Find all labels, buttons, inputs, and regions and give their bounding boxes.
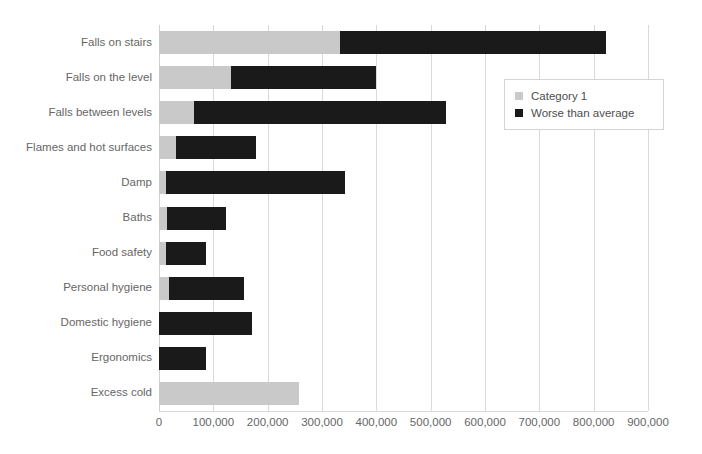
bar-segment[interactable]: [159, 66, 231, 89]
bar-segment[interactable]: [169, 277, 243, 300]
bar-segment[interactable]: [176, 136, 255, 159]
bar-row[interactable]: [159, 382, 648, 405]
legend-swatch-icon-category-1: [515, 92, 523, 100]
bar-segment[interactable]: [159, 31, 340, 54]
bar-segment[interactable]: [159, 382, 299, 405]
bar-segment[interactable]: [167, 207, 226, 230]
x-tick-label: 600,000: [464, 416, 506, 428]
x-tick-label: 0: [156, 416, 162, 428]
category-label: Flames and hot surfaces: [0, 142, 152, 154]
x-tick-label: 500,000: [410, 416, 452, 428]
x-tick-label: 700,000: [519, 416, 561, 428]
bar-row[interactable]: [159, 277, 648, 300]
bar-segment[interactable]: [159, 347, 206, 370]
legend-item-worse-than-average[interactable]: Worse than average: [515, 104, 653, 121]
stacked-bar-chart: Falls on stairsFalls on the levelFalls b…: [0, 0, 702, 454]
category-label: Falls on stairs: [0, 37, 152, 49]
bar-row[interactable]: [159, 207, 648, 230]
legend-label-category-1: Category 1: [531, 90, 587, 102]
legend-swatch-icon-worse-than-average: [515, 109, 523, 117]
x-tick-label: 900,000: [627, 416, 669, 428]
x-tick-label: 400,000: [356, 416, 398, 428]
bar-row[interactable]: [159, 312, 648, 335]
category-label: Baths: [0, 212, 152, 224]
category-label: Domestic hygiene: [0, 317, 152, 329]
x-tick-label: 800,000: [573, 416, 615, 428]
category-label: Falls on the level: [0, 72, 152, 84]
legend-label-worse-than-average: Worse than average: [531, 107, 634, 119]
bar-segment[interactable]: [159, 277, 169, 300]
category-label: Ergonomics: [0, 352, 152, 364]
bar-row[interactable]: [159, 31, 648, 54]
category-label: Excess cold: [0, 387, 152, 399]
x-tick-label: 200,000: [247, 416, 289, 428]
bar-segment[interactable]: [166, 242, 207, 265]
x-axis-baseline: [159, 411, 648, 412]
x-tick-label: 300,000: [301, 416, 343, 428]
bar-row[interactable]: [159, 171, 648, 194]
legend-item-category-1[interactable]: Category 1: [515, 87, 653, 104]
value-axis-labels: 0100,000200,000300,000400,000500,000600,…: [0, 416, 702, 440]
bar-segment[interactable]: [159, 207, 167, 230]
category-label: Personal hygiene: [0, 282, 152, 294]
chart-legend[interactable]: Category 1 Worse than average: [504, 79, 664, 130]
bar-segment[interactable]: [159, 101, 194, 124]
bar-segment[interactable]: [340, 31, 606, 54]
bar-row[interactable]: [159, 136, 648, 159]
category-label: Food safety: [0, 247, 152, 259]
bar-segment[interactable]: [166, 171, 346, 194]
bar-row[interactable]: [159, 242, 648, 265]
category-label: Falls between levels: [0, 107, 152, 119]
bar-row[interactable]: [159, 347, 648, 370]
bar-segment[interactable]: [194, 101, 446, 124]
bar-segment[interactable]: [231, 66, 376, 89]
category-axis-labels: Falls on stairsFalls on the levelFalls b…: [0, 25, 152, 411]
bar-segment[interactable]: [159, 136, 176, 159]
bar-segment[interactable]: [159, 312, 252, 335]
category-label: Damp: [0, 177, 152, 189]
x-tick-label: 100,000: [193, 416, 235, 428]
